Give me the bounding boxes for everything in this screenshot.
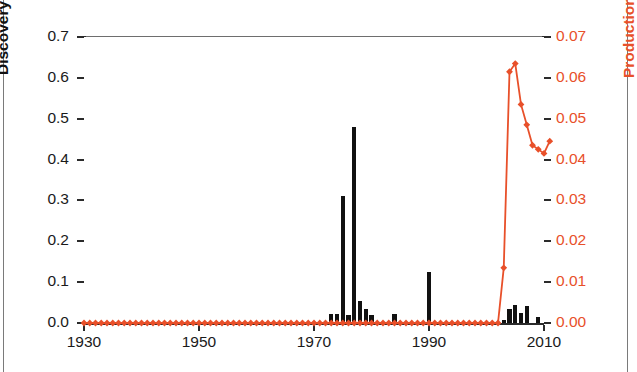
y-axis-right-tick-label: 0.07 [556,27,586,45]
y-axis-right-tick-label: 0.00 [556,313,586,331]
x-axis-tick-label: 1950 [169,333,229,351]
production-line [84,64,550,323]
production-marker [523,121,530,128]
y-axis-right-tick [544,77,551,79]
y-axis-right-tick-label: 0.06 [556,68,586,86]
y-axis-left-tick-label: 0.4 [47,150,69,168]
y-axis-right-tick-label: 0.03 [556,190,586,208]
y-axis-left-tick [77,240,84,242]
y-axis-right-tick [544,36,551,38]
y-axis-right-title: Production Gb/a [620,0,637,78]
y-axis-right-tick [544,322,551,324]
y-axis-left-tick [77,159,84,161]
y-axis-left-tick-label: 0.3 [47,190,69,208]
y-axis-left-tick [77,118,84,120]
y-axis-right-tick [544,281,551,283]
y-axis-left-tick [77,199,84,201]
y-axis-left-title: Discovery Gb/a [0,0,12,75]
y-axis-left-tick-label: 0.2 [47,231,69,249]
y-axis-right-tick [544,159,551,161]
y-axis-left-tick-label: 0.6 [47,68,69,86]
x-axis-tick [543,325,545,331]
y-axis-right-tick-label: 0.04 [556,150,586,168]
production-marker [495,320,502,327]
y-axis-right-tick [544,199,551,201]
x-axis-tick-label: 2010 [514,333,574,351]
y-axis-right-tick-label: 0.01 [556,272,586,290]
x-axis-tick-label: 1990 [399,333,459,351]
y-axis-right-tick [544,118,551,120]
x-axis-tick-label: 1930 [54,333,114,351]
plot-area [84,37,544,323]
chart-figure: Discovery Gb/a Production Gb/a 0.00.10.2… [0,0,637,372]
production-marker [518,101,525,108]
y-axis-right-tick-label: 0.05 [556,109,586,127]
y-axis-left-tick [77,281,84,283]
y-axis-right-tick-label: 0.02 [556,231,586,249]
production-line-layer [84,37,544,323]
y-axis-left-tick-label: 0.0 [47,313,69,331]
production-marker [546,138,553,145]
y-axis-left-tick-label: 0.7 [47,27,69,45]
y-axis-left-tick [77,77,84,79]
y-axis-right-tick [544,240,551,242]
y-axis-left-tick [77,36,84,38]
x-axis-tick-label: 1970 [284,333,344,351]
production-marker [500,264,507,271]
y-axis-left-tick-label: 0.1 [47,272,69,290]
y-axis-left-tick-label: 0.5 [47,109,69,127]
